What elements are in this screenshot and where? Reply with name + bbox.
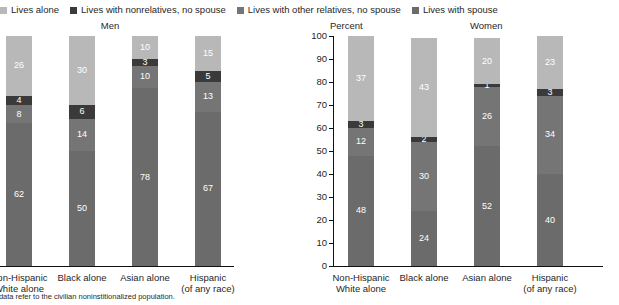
bar-segment-men-0-0[interactable]: 62: [6, 123, 32, 266]
bar-value-label: 40: [545, 216, 555, 225]
legend-swatch-nonrel: [70, 7, 77, 14]
bar-segment-men-1-1[interactable]: 14: [69, 119, 95, 151]
bar-segment-men-1-3[interactable]: 30: [69, 36, 95, 105]
legend-label-otherrel: Lives with other relatives, no spouse: [248, 5, 401, 15]
legend-item-alone[interactable]: Lives alone: [0, 5, 59, 15]
y-axis-tick-70: [329, 105, 333, 106]
legend-label-spouse: Lives with spouse: [423, 5, 498, 15]
bar-segment-women-0-2[interactable]: 3: [348, 121, 374, 128]
bar-segment-men-2-2[interactable]: 3: [132, 59, 158, 66]
y-axis-tick-label-20: 20: [316, 215, 327, 225]
bar-segment-women-1-1[interactable]: 30: [411, 142, 437, 211]
x-axis-line-men: [0, 266, 234, 267]
bar-value-label: 23: [545, 58, 555, 67]
bar-value-label: 10: [140, 43, 150, 52]
chart-footnote: lation: These data refer to the civilian…: [0, 292, 175, 301]
bar-women-1[interactable]: 2430243: [411, 36, 437, 266]
bar-women-0[interactable]: 4812337: [348, 36, 374, 266]
bar-value-label: 3: [358, 120, 363, 129]
bar-value-label: 10: [140, 72, 150, 81]
category-label-line: (of any race): [510, 283, 590, 294]
bar-segment-women-3-3[interactable]: 23: [537, 36, 563, 89]
bar-segment-women-0-0[interactable]: 48: [348, 156, 374, 266]
bar-men-2[interactable]: 7810310: [132, 36, 158, 266]
bar-value-label: 3: [547, 88, 552, 97]
category-label-women-3: Hispanic(of any race): [510, 272, 590, 294]
bar-men-1[interactable]: 5014630: [69, 36, 95, 266]
chart-legend: Lives aloneLives with nonrelatives, no s…: [0, 3, 619, 17]
panel-title-men: Men: [60, 20, 160, 31]
y-axis-line-women: [333, 36, 334, 266]
bar-segment-men-3-0[interactable]: 67: [195, 112, 221, 266]
legend-item-nonrel[interactable]: Lives with nonrelatives, no spouse: [70, 5, 226, 15]
bar-segment-women-3-1[interactable]: 34: [537, 96, 563, 174]
y-axis-tick-label-50: 50: [316, 146, 327, 156]
bar-segment-men-2-0[interactable]: 78: [132, 88, 158, 266]
bar-segment-women-0-3[interactable]: 37: [348, 36, 374, 121]
bar-value-label: 52: [482, 202, 492, 211]
bar-value-label: 30: [77, 66, 87, 75]
bar-value-label: 6: [79, 107, 84, 116]
bar-segment-men-1-0[interactable]: 50: [69, 151, 95, 266]
bar-value-label: 30: [419, 172, 429, 181]
bar-segment-women-2-0[interactable]: 52: [474, 146, 500, 266]
y-axis-tick-label-60: 60: [316, 123, 327, 133]
y-axis-tick-label-0: 0: [322, 261, 327, 271]
bar-segment-women-2-2[interactable]: 1: [474, 84, 500, 86]
bar-segment-men-1-2[interactable]: 6: [69, 105, 95, 119]
category-label-men-3: Hispanic(of any race): [168, 272, 248, 294]
x-axis-line-women: [333, 266, 603, 267]
bar-value-label: 50: [77, 204, 87, 213]
bar-value-label: 20: [482, 57, 492, 66]
bar-segment-women-0-1[interactable]: 12: [348, 128, 374, 156]
bar-segment-women-1-3[interactable]: 43: [411, 38, 437, 137]
plot-area-men: 628426Non-HispanicWhite alone5014630Blac…: [0, 36, 234, 266]
bar-value-label: 37: [356, 74, 366, 83]
bar-men-0[interactable]: 628426: [6, 36, 32, 266]
category-label-line: Hispanic: [510, 272, 590, 283]
y-axis-tick-100: [329, 36, 333, 37]
bar-value-label: 26: [14, 61, 24, 70]
y-axis-tick-label-10: 10: [316, 238, 327, 248]
panel-title-women: Women: [470, 20, 530, 31]
legend-item-otherrel[interactable]: Lives with other relatives, no spouse: [237, 5, 401, 15]
bar-value-label: 15: [203, 49, 213, 58]
category-label-line: Hispanic: [168, 272, 248, 283]
chart-panel-women: 01020304050607080901004812337Non-Hispani…: [333, 36, 603, 266]
bar-value-label: 62: [14, 190, 24, 199]
bar-segment-men-0-3[interactable]: 26: [6, 36, 32, 96]
bar-segment-men-3-1[interactable]: 13: [195, 82, 221, 112]
bar-segment-women-1-2[interactable]: 2: [411, 137, 437, 142]
bar-men-3[interactable]: 6713515: [195, 36, 221, 266]
legend-label-alone: Lives alone: [11, 5, 59, 15]
bar-segment-women-3-0[interactable]: 40: [537, 174, 563, 266]
bar-segment-women-2-1[interactable]: 26: [474, 87, 500, 147]
bar-segment-men-0-1[interactable]: 8: [6, 105, 32, 123]
y-axis-tick-label-70: 70: [316, 100, 327, 110]
y-axis-tick-label-90: 90: [316, 54, 327, 64]
y-axis-tick-30: [329, 197, 333, 198]
bar-segment-women-1-0[interactable]: 24: [411, 211, 437, 266]
bar-segment-men-2-1[interactable]: 10: [132, 66, 158, 89]
bar-segment-women-3-2[interactable]: 3: [537, 89, 563, 96]
plot-area-women: 01020304050607080901004812337Non-Hispani…: [333, 36, 603, 266]
bar-women-2[interactable]: 5226120: [474, 36, 500, 266]
legend-swatch-spouse: [412, 7, 419, 14]
y-axis-tick-90: [329, 59, 333, 60]
bar-value-label: 26: [482, 112, 492, 121]
bar-segment-men-3-3[interactable]: 15: [195, 36, 221, 71]
bar-segment-women-2-3[interactable]: 20: [474, 38, 500, 84]
chart-panel-men: 628426Non-HispanicWhite alone5014630Blac…: [0, 36, 234, 266]
bar-segment-men-3-2[interactable]: 5: [195, 71, 221, 83]
bar-segment-men-0-2[interactable]: 4: [6, 96, 32, 105]
bar-segment-men-2-3[interactable]: 10: [132, 36, 158, 59]
bar-value-label: 34: [545, 130, 555, 139]
y-axis-tick-label-30: 30: [316, 192, 327, 202]
legend-item-spouse[interactable]: Lives with spouse: [412, 5, 498, 15]
bar-women-3[interactable]: 4034323: [537, 36, 563, 266]
category-label-line: (of any race): [168, 283, 248, 294]
y-axis-tick-20: [329, 220, 333, 221]
bar-value-label: 3: [142, 58, 147, 67]
y-axis-tick-10: [329, 243, 333, 244]
bar-value-label: 8: [16, 110, 21, 119]
